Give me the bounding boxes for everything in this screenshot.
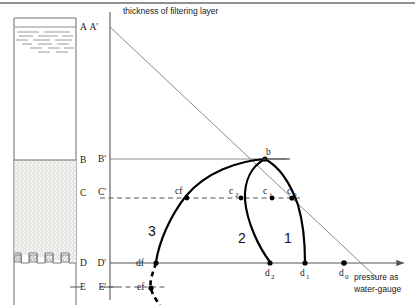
pressure-curve-3-extension [150, 263, 160, 305]
chart-level-label-C-prime: C' [98, 187, 106, 197]
point-label-d1: d 1 [300, 268, 310, 281]
chart-level-label-B-prime: B' [98, 154, 106, 164]
point-label-c0-base: c [287, 186, 291, 196]
vessel-level-label-C: C [80, 188, 86, 198]
x-axis-title-line1: pressure as [354, 272, 398, 282]
point-label-cf: cf [175, 186, 183, 196]
point-label-d0-base: d [339, 268, 344, 278]
point-dot-df [153, 260, 158, 265]
chart-axes [110, 12, 404, 300]
point-label-c1-base: c [263, 186, 267, 196]
point-dot-d2 [267, 260, 272, 265]
curve-label-1: 1 [284, 230, 292, 246]
point-label-d0-sub: 0 [345, 273, 349, 281]
water-surface-band [15, 27, 76, 52]
pressure-curve-2 [245, 159, 270, 262]
chart-level-label-E-prime: E' [98, 282, 106, 292]
point-dot-d0 [341, 260, 347, 266]
point-label-d2: d 2 [265, 268, 275, 281]
vessel-level-label-D: D [80, 258, 87, 268]
curve-label-3: 3 [148, 223, 156, 239]
point-label-c2-base: c [229, 186, 233, 196]
curve-label-2: 2 [238, 230, 246, 246]
y-axis-title: thickness of filtering layer [123, 6, 219, 16]
marked-point-dots [148, 156, 346, 290]
point-dot-d1 [302, 260, 307, 265]
chart-level-labels: A' B' C' D' E' [89, 22, 106, 292]
curve-number-labels: 1 2 3 [148, 223, 292, 246]
chart-level-label-A-prime: A' [89, 22, 98, 32]
point-label-c0-sub: 0 [293, 191, 297, 199]
point-labels: b c 0 c 1 c 2 cf ef df [136, 147, 349, 292]
chart-level-lines [100, 159, 300, 287]
figure-root: A B C D E [0, 0, 415, 307]
pressure-curve-1 [265, 159, 305, 262]
x-axis-title-line2: water-gauge [353, 284, 402, 294]
filter-vessel-cross-section [14, 18, 76, 305]
point-label-c1: c 1 [263, 186, 273, 199]
point-dot-cf [185, 196, 190, 201]
point-label-c2-sub: 2 [235, 191, 239, 199]
vessel-level-label-B: B [80, 155, 86, 165]
point-label-df: df [136, 258, 145, 268]
point-label-d1-sub: 1 [306, 273, 310, 281]
point-label-b: b [266, 147, 271, 157]
point-label-d2-sub: 2 [271, 273, 275, 281]
sand-filter-layer [15, 160, 77, 263]
point-label-d2-base: d [265, 268, 270, 278]
vessel-level-label-A: A [80, 22, 87, 32]
point-label-d1-base: d [300, 268, 305, 278]
point-dot-c2 [239, 196, 244, 201]
underdrain-crenellations [15, 253, 77, 263]
point-label-ef: ef [137, 282, 145, 292]
chart-level-label-D-prime: D' [97, 258, 106, 268]
point-dot-ef [148, 285, 153, 290]
point-label-c2: c 2 [229, 186, 239, 199]
filter-pressure-diagram: A B C D E [0, 0, 415, 307]
point-label-c1-sub: 1 [269, 191, 273, 199]
point-label-d0: d 0 [339, 268, 349, 281]
